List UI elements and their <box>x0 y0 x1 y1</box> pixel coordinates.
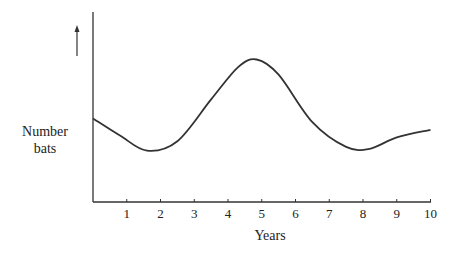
y-label-line-2: bats <box>14 140 76 157</box>
x-tick-label: 6 <box>286 206 306 222</box>
x-tick-label: 2 <box>151 206 171 222</box>
x-tick-label: 8 <box>353 206 373 222</box>
x-axis-label: Years <box>240 228 300 244</box>
x-tick-label: 4 <box>218 206 238 222</box>
arrow-up-icon <box>75 25 80 56</box>
x-tick-label: 7 <box>319 206 339 222</box>
y-label-line-1: Number <box>14 123 76 140</box>
x-tick-label: 10 <box>421 206 441 222</box>
x-tick-label: 5 <box>252 206 272 222</box>
y-axis-label: Number bats <box>14 123 76 157</box>
data-line <box>93 59 431 151</box>
x-tick-label: 3 <box>184 206 204 222</box>
x-tick-label: 9 <box>387 206 407 222</box>
x-tick-label: 1 <box>117 206 137 222</box>
